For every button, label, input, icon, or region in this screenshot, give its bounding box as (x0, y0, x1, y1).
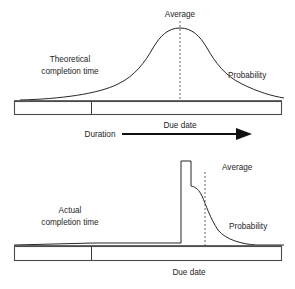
completion-time-diagram: Average Probability Theoretical completi… (0, 0, 295, 289)
actual-average-label: Average (222, 163, 253, 172)
actual-spike-curve (14, 161, 284, 245)
actual-caption-line2: completion time (41, 218, 99, 227)
theoretical-caption-line1: Theoretical (50, 55, 91, 64)
actual-timeline-bar (15, 247, 282, 261)
theoretical-timeline-bar (15, 102, 282, 115)
theoretical-caption-line2: completion time (41, 67, 99, 76)
actual-probability-label: Probability (229, 222, 268, 231)
due-date-label-top: Due date (163, 121, 197, 130)
theoretical-panel: Average Probability Theoretical completi… (14, 10, 284, 115)
duration-axis: Duration Due date (85, 121, 252, 140)
due-date-label-bottom: Due date (172, 268, 206, 277)
theoretical-bell-curve (20, 28, 284, 100)
actual-panel: Average Probability Actual completion ti… (14, 161, 284, 277)
actual-caption-line1: Actual (59, 206, 82, 215)
theoretical-average-label: Average (165, 10, 196, 19)
theoretical-probability-label: Probability (228, 71, 267, 80)
duration-label: Duration (85, 130, 116, 139)
duration-arrow-head (236, 128, 252, 140)
